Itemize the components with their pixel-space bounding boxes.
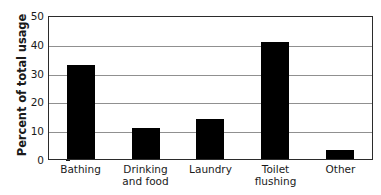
bar-slot — [307, 17, 372, 159]
y-tick-label: 50 — [22, 11, 44, 21]
bar — [132, 128, 160, 159]
x-tick-label: Toilet flushing — [243, 163, 308, 187]
y-tick-label: 10 — [22, 126, 44, 136]
x-tick-label: Drinking and food — [113, 163, 178, 187]
bar — [67, 65, 95, 159]
bars-group — [49, 17, 372, 159]
bar — [261, 42, 289, 159]
bar-slot — [243, 17, 308, 159]
bar-slot — [49, 17, 114, 159]
x-tick-label: Bathing — [48, 163, 113, 187]
x-tick-label: Laundry — [178, 163, 243, 187]
y-tick-label: 20 — [22, 97, 44, 107]
plot-area — [48, 16, 373, 160]
x-tick-label: Other — [308, 163, 373, 187]
bar-slot — [178, 17, 243, 159]
y-axis-tick-labels: 01020304050 — [22, 0, 44, 195]
bar — [326, 150, 354, 159]
y-tick-mark — [66, 160, 70, 161]
y-tick-label: 0 — [22, 155, 44, 165]
bar-chart-figure: Percent of total usage 01020304050 Bathi… — [0, 0, 381, 195]
bar — [196, 119, 224, 159]
x-axis-tick-labels: BathingDrinking and foodLaundryToilet fl… — [48, 163, 373, 187]
y-tick-label: 30 — [22, 69, 44, 79]
bar-slot — [114, 17, 179, 159]
y-tick-label: 40 — [22, 40, 44, 50]
